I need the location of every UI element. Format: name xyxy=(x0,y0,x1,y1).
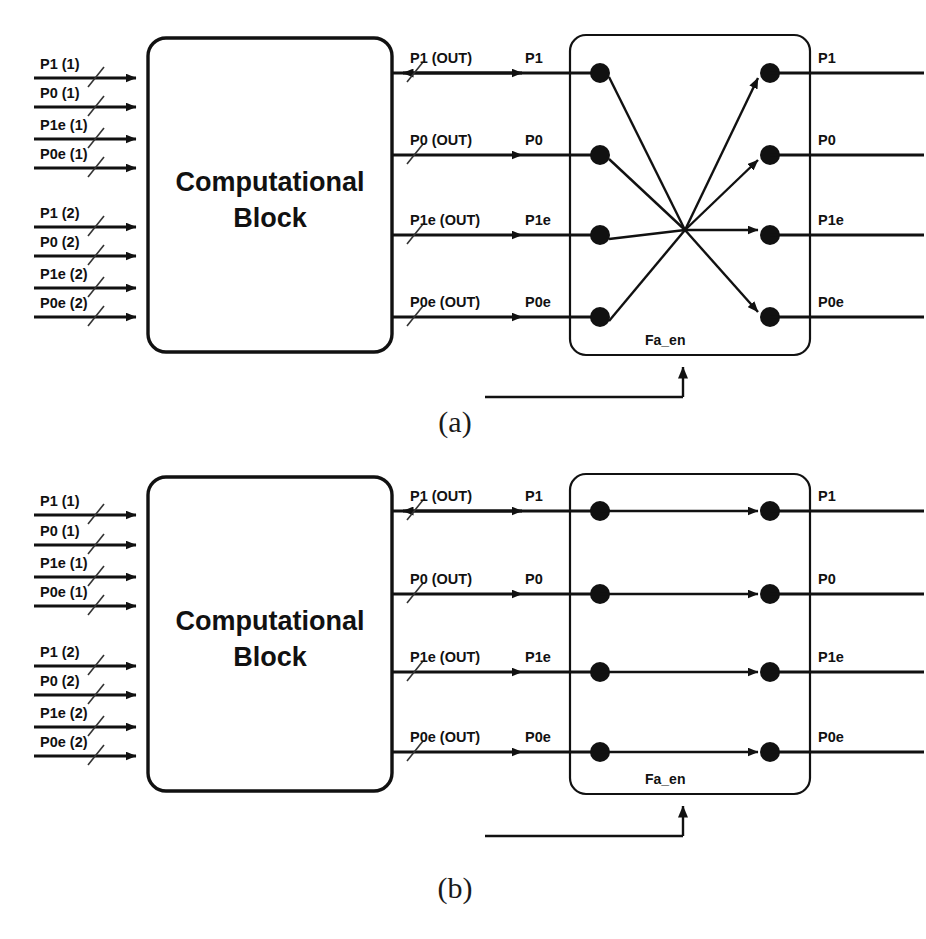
crossbar-input-port-label: P0e xyxy=(525,729,551,745)
panel-b: ComputationalBlockP1 (1)P0 (1)P1e (1)P0e… xyxy=(34,474,924,836)
input-label: P0 (1) xyxy=(40,85,80,101)
input-label: P0e (1) xyxy=(40,584,88,600)
crossbar-input-port-label: P1e xyxy=(525,212,551,228)
crossbar-input-port-label: P1 xyxy=(525,488,543,504)
output-label: P1 (OUT) xyxy=(410,488,472,504)
crossbar-routing xyxy=(609,77,758,321)
crossbar-output-port-label: P1 xyxy=(818,488,836,504)
computational-block: ComputationalBlock xyxy=(148,477,392,791)
crossbar-routing xyxy=(600,511,758,752)
input-label: P1 (2) xyxy=(40,644,80,660)
input-label: P1 (2) xyxy=(40,205,80,221)
output-label: P1e (OUT) xyxy=(410,649,480,665)
enable-signal: Fa_en xyxy=(485,771,685,836)
input-label: P1e (1) xyxy=(40,555,88,571)
input-bus: P1 (1)P0 (1)P1e (1)P0e (1)P1 (2)P0 (2)P1… xyxy=(34,493,136,765)
panel-a: ComputationalBlockP1 (1)P0 (1)P1e (1)P0e… xyxy=(34,35,924,397)
enable-signal: Fa_en xyxy=(485,332,685,397)
crossbar-input-port-label: P1 xyxy=(525,50,543,66)
output-bus: P1 (OUT)P1P1P0 (OUT)P0P0P1e (OUT)P1eP1eP… xyxy=(392,488,924,762)
crossbar-box xyxy=(570,35,810,355)
input-label: P0 (2) xyxy=(40,234,80,250)
crossbar-input-port-label: P0e xyxy=(525,294,551,310)
crossbar-output-port-label: P1e xyxy=(818,649,844,665)
crossbar-output-port-label: P0 xyxy=(818,571,836,587)
input-label: P1e (2) xyxy=(40,705,88,721)
crossbar-output-port-label: P0 xyxy=(818,132,836,148)
crossbar-output-port-label: P0e xyxy=(818,294,844,310)
crossbar-input-port-label: P0 xyxy=(525,571,543,587)
block-title-line2: Block xyxy=(233,203,308,233)
output-label: P1e (OUT) xyxy=(410,212,480,228)
block-title-line1: Computational xyxy=(176,167,365,197)
diagram-geometry: ComputationalBlockP1 (1)P0 (1)P1e (1)P0e… xyxy=(34,35,924,836)
enable-label: Fa_en xyxy=(645,771,685,787)
input-label: P1e (2) xyxy=(40,266,88,282)
output-label: P1 (OUT) xyxy=(410,50,472,66)
crossbar-output-port-label: P0e xyxy=(818,729,844,745)
output-label: P0e (OUT) xyxy=(410,729,480,745)
input-label: P0 (2) xyxy=(40,673,80,689)
input-label: P1e (1) xyxy=(40,117,88,133)
figure-root: ComputationalBlockP1 (1)P0 (1)P1e (1)P0e… xyxy=(0,0,926,939)
output-label: P0e (OUT) xyxy=(410,294,480,310)
crossbar-input-port-label: P1e xyxy=(525,649,551,665)
input-bus: P1 (1)P0 (1)P1e (1)P0e (1)P1 (2)P0 (2)P1… xyxy=(34,56,136,326)
input-label: P0e (2) xyxy=(40,734,88,750)
output-label: P0 (OUT) xyxy=(410,132,472,148)
input-label: P1 (1) xyxy=(40,56,80,72)
computational-block: ComputationalBlock xyxy=(148,38,392,352)
input-label: P0e (2) xyxy=(40,295,88,311)
input-label: P0 (1) xyxy=(40,523,80,539)
crossbar-output-port-label: P1e xyxy=(818,212,844,228)
input-label: P0e (1) xyxy=(40,146,88,162)
enable-label: Fa_en xyxy=(645,332,685,348)
block-title-line2: Block xyxy=(233,642,308,672)
crossbar-input-port-label: P0 xyxy=(525,132,543,148)
crossbar-output-port-label: P1 xyxy=(818,50,836,66)
block-title-line1: Computational xyxy=(176,606,365,636)
input-label: P1 (1) xyxy=(40,493,80,509)
output-label: P0 (OUT) xyxy=(410,571,472,587)
block-diagram-svg: ComputationalBlockP1 (1)P0 (1)P1e (1)P0e… xyxy=(0,0,926,939)
output-bus: P1 (OUT)P1P1P0 (OUT)P0P0P1e (OUT)P1eP1eP… xyxy=(392,50,924,327)
